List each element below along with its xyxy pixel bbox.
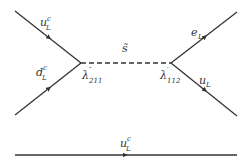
fermion-line-bottom-right xyxy=(171,63,237,116)
label-bottom-right: u L xyxy=(199,69,211,89)
label-vertex-right: λ ′ 112 xyxy=(159,57,181,85)
label-bottom-left: d c L xyxy=(36,55,52,82)
label-spectator: u c L xyxy=(120,126,136,153)
feynman-diagram: u c L d c L s̃ λ ″ 211 λ ′ 112 e L u L u… xyxy=(0,0,249,168)
label-top-left: u c L xyxy=(40,6,56,32)
label-propagator: s̃ xyxy=(122,42,128,55)
label-top-right: e L xyxy=(191,21,203,41)
label-vertex-left: λ ″ 211 xyxy=(81,57,102,85)
fermion-line-top-right xyxy=(171,12,237,63)
